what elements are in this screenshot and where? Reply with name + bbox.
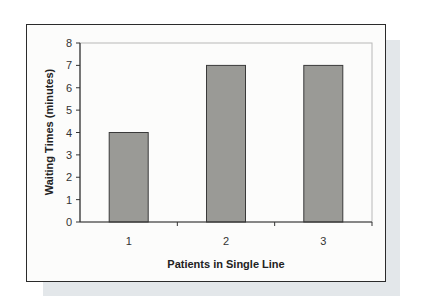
y-tick-label: 0: [66, 216, 72, 228]
y-tick-label: 5: [66, 104, 72, 116]
y-tick-label: 4: [66, 127, 72, 139]
y-tick-label: 6: [66, 82, 72, 94]
x-axis-title: Patients in Single Line: [167, 258, 284, 270]
bars: [109, 65, 343, 222]
y-tick-label: 7: [66, 59, 72, 71]
y-tick-label: 2: [66, 171, 72, 183]
y-ticks: 012345678: [66, 37, 80, 228]
bar-1: [109, 133, 148, 223]
y-tick-label: 1: [66, 194, 72, 206]
bar-chart: 012345678 123 Patients in Single Line Wa…: [0, 0, 422, 303]
y-tick-label: 3: [66, 149, 72, 161]
y-tick-label: 8: [66, 37, 72, 49]
bar-2: [207, 65, 246, 222]
y-axis-title: Waiting Times (minutes): [43, 68, 55, 195]
x-ticks: 123: [126, 222, 372, 247]
x-tick-label: 3: [320, 235, 326, 247]
x-tick-label: 2: [223, 235, 229, 247]
bar-3: [304, 65, 343, 222]
x-tick-label: 1: [126, 235, 132, 247]
